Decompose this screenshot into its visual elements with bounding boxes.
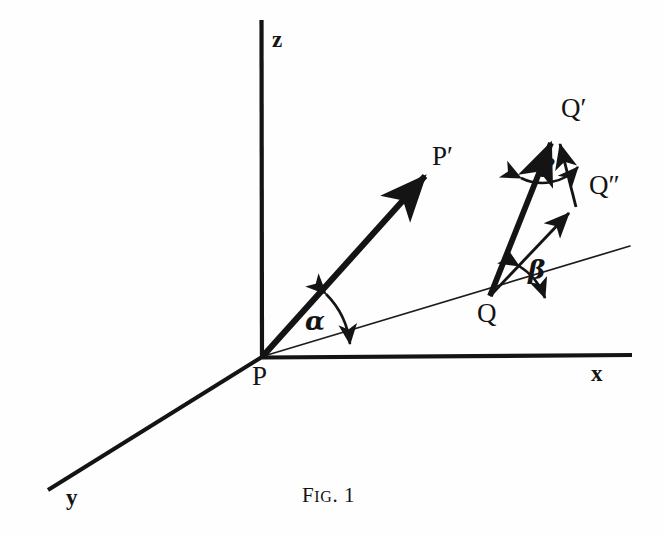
figure-1-diagram: z x y P P′ Q Q′ Q″ α β γ FIG. 1 (0, 0, 665, 534)
figure-caption-smallcaps: IG (314, 488, 332, 505)
figure-caption-suffix: . 1 (332, 483, 355, 507)
figure-caption-prefix: F (302, 483, 314, 507)
angle-label-gamma: γ (537, 150, 554, 176)
axis-y-line (48, 357, 262, 490)
axis-label-z: z (272, 28, 282, 51)
vector-P-to-P-prime-shaft (263, 176, 425, 356)
vector-P-to-P-prime (263, 176, 425, 356)
figure-caption: FIG. 1 (302, 485, 355, 506)
ground-ray-group (264, 246, 630, 356)
axis-label-y: y (66, 486, 78, 509)
axis-x-line (262, 355, 632, 358)
point-label-Q: Q (477, 300, 497, 327)
axis-z-line (262, 20, 263, 358)
point-label-P: P (252, 363, 267, 390)
point-label-Q-prime: Q′ (561, 95, 586, 122)
angle-label-beta: β (528, 257, 545, 283)
axis-label-x: x (591, 362, 603, 385)
ground-ray-through-Q (264, 246, 630, 356)
point-label-Q-double-prime: Q″ (589, 172, 620, 199)
vector-diagram-canvas (0, 0, 665, 534)
angle-label-alpha: α (305, 308, 325, 334)
point-label-P-prime: P′ (432, 143, 453, 170)
